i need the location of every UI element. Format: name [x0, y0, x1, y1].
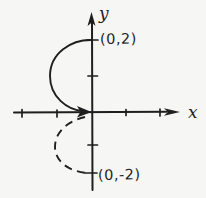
y-axis-line [92, 22, 93, 190]
x-axis [14, 108, 180, 117]
y-axis-label: y [98, 3, 109, 23]
lower-left-semicircle [55, 117, 89, 173]
point-label-bottom: (0,-2) [98, 166, 141, 183]
coordinate-plane-svg: y x (0,2) (0,-2) [0, 0, 206, 198]
math-figure: y x (0,2) (0,-2) [0, 0, 206, 198]
upper-semicircle-curve [50, 40, 92, 111]
upper-left-semicircle [50, 40, 92, 118]
lower-semicircle-curve [55, 117, 89, 173]
point-label-top: (0,2) [100, 30, 137, 47]
x-axis-label: x [188, 102, 198, 122]
y-axis [85, 12, 98, 190]
